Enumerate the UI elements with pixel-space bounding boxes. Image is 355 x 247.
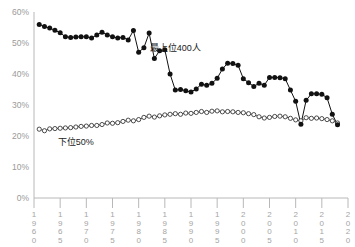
series-annotations: 最上位400人下位50% xyxy=(58,42,201,148)
data-point-lower-50 xyxy=(105,121,109,125)
data-point-top-400 xyxy=(131,28,136,33)
data-point-lower-50 xyxy=(58,126,62,130)
data-point-top-400 xyxy=(168,72,173,77)
x-tick-label: 1975 xyxy=(110,210,115,245)
x-tick-digit: 5 xyxy=(215,236,220,245)
data-point-lower-50 xyxy=(257,115,261,119)
data-point-lower-50 xyxy=(330,119,334,123)
data-point-top-400 xyxy=(63,34,68,39)
series-bottom-markers xyxy=(37,109,340,133)
series-bottom-line xyxy=(39,111,337,131)
data-point-lower-50 xyxy=(231,110,235,114)
x-tick-label: 1965 xyxy=(58,210,63,245)
data-point-lower-50 xyxy=(48,127,52,131)
data-point-top-400 xyxy=(47,26,52,31)
data-point-top-400 xyxy=(298,122,303,127)
data-point-top-400 xyxy=(110,34,115,39)
annotation-lower-50: 下位50% xyxy=(58,136,94,147)
data-point-lower-50 xyxy=(126,118,130,122)
x-tick-label: 2005 xyxy=(267,210,272,245)
data-point-top-400 xyxy=(293,99,298,104)
data-point-lower-50 xyxy=(95,123,99,127)
x-tick-digit: 0 xyxy=(346,236,351,245)
data-point-lower-50 xyxy=(283,115,287,119)
data-point-lower-50 xyxy=(273,114,277,118)
data-point-top-400 xyxy=(220,67,225,72)
data-point-lower-50 xyxy=(262,116,266,120)
data-point-lower-50 xyxy=(304,116,308,120)
y-tick-label: 60% xyxy=(12,7,29,17)
data-point-lower-50 xyxy=(184,111,188,115)
data-point-top-400 xyxy=(262,83,267,88)
data-point-lower-50 xyxy=(325,117,329,121)
series-line-lower-50 xyxy=(39,111,337,131)
data-point-top-400 xyxy=(304,98,309,103)
data-point-top-400 xyxy=(58,30,63,35)
chart-container: 60%50%40%30%20%10%0% 1960196519701975198… xyxy=(0,0,355,247)
x-tick-label: 1970 xyxy=(84,210,89,245)
data-point-top-400 xyxy=(277,75,282,80)
data-point-lower-50 xyxy=(147,114,151,118)
data-point-top-400 xyxy=(42,24,47,29)
data-point-top-400 xyxy=(136,50,141,55)
data-point-lower-50 xyxy=(236,110,240,114)
y-axis-tick-labels: 60%50%40%30%20%10%0% xyxy=(12,7,29,203)
data-point-top-400 xyxy=(94,32,99,37)
data-point-lower-50 xyxy=(178,112,182,116)
data-point-top-400 xyxy=(141,45,146,50)
data-point-lower-50 xyxy=(241,111,245,115)
data-point-top-400 xyxy=(199,82,204,87)
data-point-top-400 xyxy=(215,76,220,81)
x-tick-label: 2020 xyxy=(346,210,351,245)
data-point-lower-50 xyxy=(69,126,73,130)
data-point-lower-50 xyxy=(137,117,141,121)
x-tick-digit: 0 xyxy=(241,236,246,245)
y-tick-label: 40% xyxy=(12,69,29,79)
x-tick-label: 1990 xyxy=(189,210,194,245)
data-point-top-400 xyxy=(335,122,340,127)
data-point-lower-50 xyxy=(79,124,83,128)
x-tick-label: 2010 xyxy=(293,210,298,245)
x-tick-digit: 5 xyxy=(267,236,272,245)
data-point-top-400 xyxy=(120,35,125,40)
data-point-lower-50 xyxy=(42,129,46,133)
x-tick-label: 1985 xyxy=(163,210,168,245)
annotation-top-400: 最上位400人 xyxy=(150,42,201,53)
data-point-top-400 xyxy=(79,34,84,39)
series-top-markers xyxy=(37,22,340,127)
data-point-lower-50 xyxy=(320,117,324,121)
data-point-lower-50 xyxy=(246,112,250,116)
data-point-lower-50 xyxy=(315,116,319,120)
data-point-lower-50 xyxy=(63,126,67,130)
x-tick-label: 1995 xyxy=(215,210,220,245)
data-point-top-400 xyxy=(100,30,105,35)
data-point-lower-50 xyxy=(158,114,162,118)
data-point-top-400 xyxy=(267,75,272,80)
x-tick-digit: 5 xyxy=(320,236,325,245)
data-point-top-400 xyxy=(272,75,277,80)
data-point-top-400 xyxy=(73,35,78,40)
x-axis-tick-labels: 1960196519701975198019851990199520002005… xyxy=(32,198,351,245)
data-point-lower-50 xyxy=(116,121,120,125)
data-point-lower-50 xyxy=(173,112,177,116)
data-point-lower-50 xyxy=(37,127,41,131)
data-point-top-400 xyxy=(84,34,89,39)
data-point-top-400 xyxy=(225,61,230,66)
data-point-top-400 xyxy=(325,95,330,100)
data-point-top-400 xyxy=(89,36,94,41)
data-point-lower-50 xyxy=(74,125,78,129)
series-top-line xyxy=(39,24,337,124)
data-point-lower-50 xyxy=(220,110,224,114)
data-point-top-400 xyxy=(147,31,152,36)
data-point-top-400 xyxy=(105,32,110,37)
x-tick-digit: 5 xyxy=(163,236,168,245)
x-tick-digit: 0 xyxy=(136,236,141,245)
data-point-lower-50 xyxy=(205,110,209,114)
data-point-top-400 xyxy=(319,92,324,97)
x-tick-digit: 0 xyxy=(84,236,89,245)
x-tick-digit: 5 xyxy=(58,236,63,245)
data-point-lower-50 xyxy=(278,114,282,118)
data-point-top-400 xyxy=(204,83,209,88)
data-point-lower-50 xyxy=(210,109,214,113)
data-point-lower-50 xyxy=(84,124,88,128)
